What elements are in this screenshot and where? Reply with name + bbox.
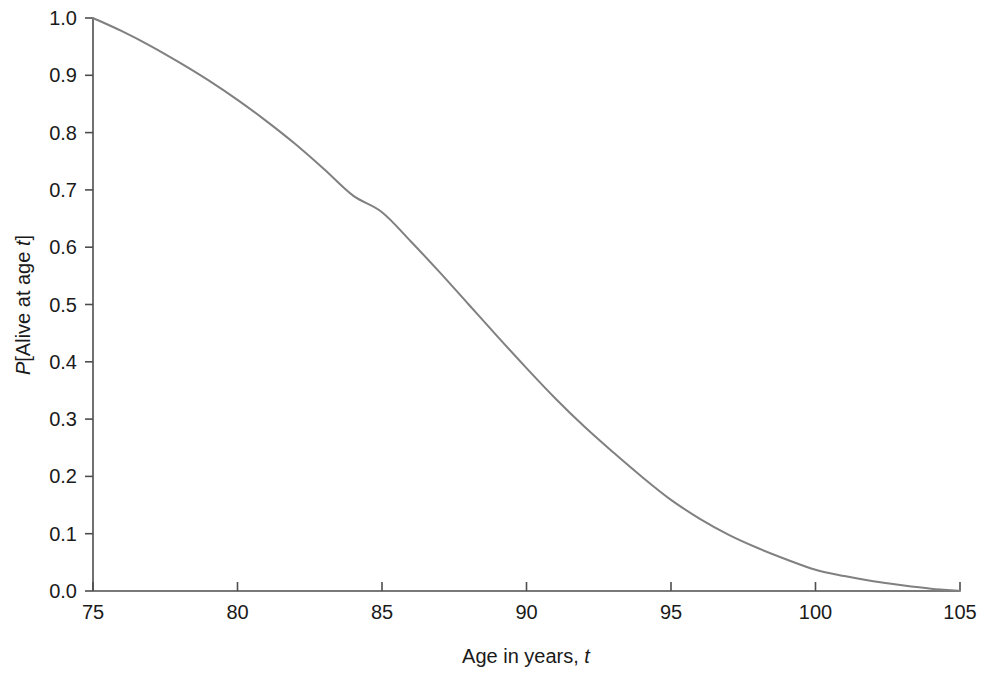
italic-variable: P <box>12 361 34 375</box>
survival-curve-figure: 0.00.10.20.30.40.50.60.70.80.91.0 758085… <box>0 0 984 683</box>
x-tick-label: 95 <box>660 601 682 623</box>
x-tick-label: 75 <box>82 601 104 623</box>
y-tick-label: 0.0 <box>49 580 77 602</box>
y-tick-label: 0.6 <box>49 236 77 258</box>
y-axis-title: P[Alive at age t] <box>12 235 34 375</box>
x-axis-title: Age in years, t <box>462 645 591 667</box>
y-tick-label: 0.7 <box>49 179 77 201</box>
y-tick-label: 1.0 <box>49 7 77 29</box>
x-tick-label: 85 <box>371 601 393 623</box>
y-tick-label: 0.4 <box>49 351 77 373</box>
y-tick-label: 0.9 <box>49 64 77 86</box>
plain-text: ] <box>12 235 34 241</box>
x-tick-label: 100 <box>799 601 832 623</box>
plot-background <box>0 0 984 683</box>
x-tick-label: 90 <box>515 601 537 623</box>
y-tick-label: 0.8 <box>49 122 77 144</box>
y-tick-label: 0.3 <box>49 408 77 430</box>
chart-canvas: 0.00.10.20.30.40.50.60.70.80.91.0 758085… <box>0 0 984 683</box>
y-tick-label: 0.2 <box>49 465 77 487</box>
y-tick-label: 0.5 <box>49 294 77 316</box>
x-tick-label: 80 <box>226 601 248 623</box>
plain-text: Age in years, <box>462 645 584 667</box>
x-tick-label: 105 <box>943 601 976 623</box>
y-tick-label: 0.1 <box>49 523 77 545</box>
plain-text: [Alive at age <box>12 246 34 362</box>
